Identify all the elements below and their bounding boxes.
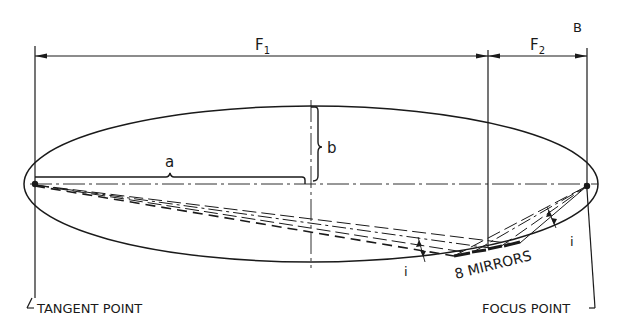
ellipse-mirror-diagram: F1 F2 B a b i i 8 MIRRORS TANGENT POINT …	[0, 0, 623, 333]
f1-label: F1	[255, 36, 270, 56]
focus-point-label: FOCUS POINT	[482, 301, 570, 316]
angle-arrows	[416, 210, 557, 257]
semi-minor-label: b	[327, 139, 337, 157]
focus-point-dot	[584, 183, 590, 189]
semi-major-brace	[35, 173, 305, 184]
b-corner-label: B	[573, 20, 582, 35]
focus-leader	[587, 190, 595, 308]
angle-label-left: i	[404, 264, 408, 279]
tangent-leader	[27, 298, 32, 308]
tangent-point-dot	[32, 181, 38, 187]
f2-label: F2	[530, 36, 545, 56]
tangent-point-label: TANGENT POINT	[36, 301, 142, 316]
semi-major-label: a	[165, 153, 174, 171]
angle-label-right: i	[570, 234, 574, 249]
semi-minor-brace	[311, 107, 322, 181]
